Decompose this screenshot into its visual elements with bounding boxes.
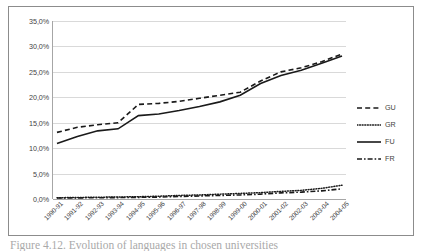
x-axis-tick-label: 2001-02 <box>267 200 289 222</box>
chart-legend: GUGRFUFR <box>357 99 415 167</box>
y-axis-tick-label: 20,0% <box>29 93 49 102</box>
y-axis-tick-label: 0,0% <box>33 195 49 204</box>
legend-label: GR <box>385 121 396 128</box>
x-axis-tick-label: 1998-99 <box>206 200 228 222</box>
legend-swatch-solid-icon <box>357 138 381 146</box>
series-line-gr <box>57 185 342 197</box>
x-axis-tick-label: 1999-00 <box>226 200 248 222</box>
x-axis-tick-label: 1997-98 <box>185 200 207 222</box>
legend-item-fu[interactable]: FU <box>357 133 415 150</box>
series-lines <box>53 21 346 199</box>
legend-swatch-dotted-icon <box>357 121 381 129</box>
x-axis-tick-label: 2004-05 <box>328 200 350 222</box>
y-axis-tick-label: 10,0% <box>29 144 49 153</box>
plot-area: 0,0%5,0%10,0%15,0%20,0%25,0%30,0%35,0% <box>52 21 346 199</box>
y-axis-tick-label: 35,0% <box>29 17 49 26</box>
x-axis-tick-label: 1994-95 <box>124 200 146 222</box>
y-axis-tick-label: 25,0% <box>29 67 49 76</box>
legend-swatch-dashed-icon <box>357 104 381 112</box>
legend-item-gu[interactable]: GU <box>357 99 415 116</box>
x-axis-tick-label: 1995-96 <box>145 200 167 222</box>
figure-caption: Figure 4.12. Evolution of languages in c… <box>10 239 414 251</box>
x-axis-tick-label: 2002-03 <box>288 200 310 222</box>
y-axis-tick-label: 30,0% <box>29 42 49 51</box>
x-axis-tick-label: 1992-93 <box>83 200 105 222</box>
legend-item-fr[interactable]: FR <box>357 150 415 167</box>
legend-label: FU <box>385 138 395 145</box>
series-line-fu <box>57 56 342 143</box>
legend-swatch-dash-dot-icon <box>357 155 381 163</box>
legend-item-gr[interactable]: GR <box>357 116 415 133</box>
x-axis-tick-label: 1993-94 <box>104 200 126 222</box>
x-axis-tick-label: 2000-01 <box>247 200 269 222</box>
x-axis-tick-label: 1991-92 <box>63 200 85 222</box>
x-axis-tick-label: 1996-97 <box>165 200 187 222</box>
series-line-gu <box>57 54 342 132</box>
y-axis-tick-label: 15,0% <box>29 118 49 127</box>
x-axis-tick-labels: 1990-911991-921992-931993-941994-951995-… <box>52 200 346 244</box>
y-axis-tick-label: 5,0% <box>33 169 49 178</box>
figure-frame: 0,0%5,0%10,0%15,0%20,0%25,0%30,0%35,0% 1… <box>8 6 414 236</box>
legend-label: FR <box>385 155 395 162</box>
legend-label: GU <box>385 104 396 111</box>
x-axis-tick-label: 2003-04 <box>308 200 330 222</box>
